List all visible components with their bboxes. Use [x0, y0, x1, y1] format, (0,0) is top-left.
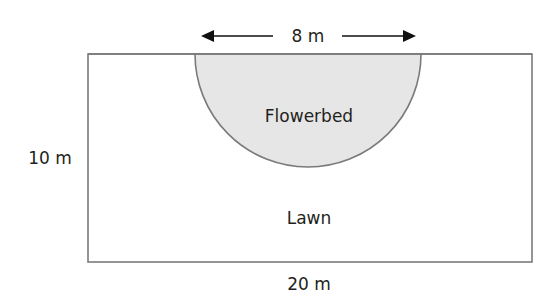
flowerbed-label: Flowerbed: [265, 106, 353, 126]
lawn-label: Lawn: [287, 208, 332, 228]
arrowhead-left-icon: [201, 30, 214, 42]
top-dimension-label: 8 m: [292, 26, 325, 46]
arrowhead-right-icon: [403, 30, 416, 42]
bottom-dimension-label: 20 m: [287, 274, 331, 294]
garden-diagram: 8 m 10 m Flowerbed Lawn 20 m: [0, 0, 549, 308]
left-dimension-label: 10 m: [28, 148, 72, 168]
